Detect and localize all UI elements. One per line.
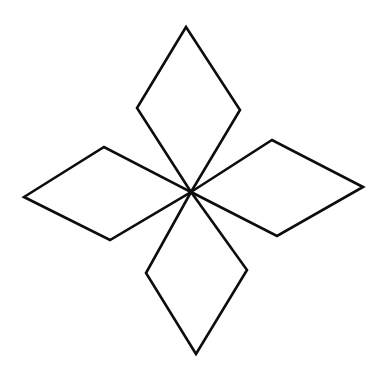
figure-canvas bbox=[0, 0, 392, 371]
four-petal-star-diagram bbox=[0, 0, 392, 371]
center-vertex-point bbox=[189, 190, 193, 194]
